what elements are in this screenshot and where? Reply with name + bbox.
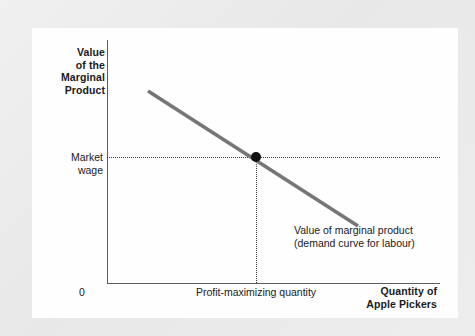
demand-curve-annotation: Value of marginal product (demand curve … — [294, 224, 464, 250]
figure-root: Value of the Marginal Product Market wag… — [0, 0, 475, 336]
market-wage-label: Market wage — [25, 151, 103, 176]
plot-area: Value of the Marginal Product Market wag… — [0, 0, 475, 336]
equilibrium-point-marker — [251, 152, 261, 162]
origin-label: 0 — [74, 286, 90, 299]
y-axis-title: Value of the Marginal Product — [25, 46, 105, 96]
x-axis-title: Quantity of Apple Pickers — [337, 285, 437, 310]
profit-maximizing-quantity-label: Profit-maximizing quantity — [176, 286, 336, 299]
